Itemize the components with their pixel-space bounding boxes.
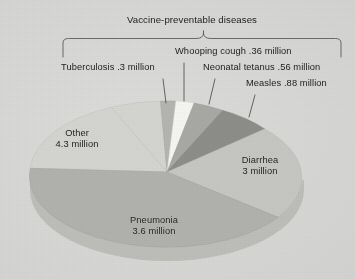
pie-chart-figure: Vaccine-preventable diseases Whooping co… [0,0,355,279]
label-whooping-cough: Whooping cough .36 million [175,46,292,57]
label-other-value: 4.3 million [34,139,120,150]
chart-title: Vaccine-preventable diseases [127,14,257,25]
label-diarrhea-value: 3 million [224,166,296,177]
leader-neonatal-tetanus [209,79,215,104]
leader-measles [249,95,255,117]
label-pneumonia-value: 3.6 million [111,226,197,237]
label-neonatal-tetanus: Neonatal tetanus .56 million [203,62,320,73]
label-pneumonia: Pneumonia 3.6 million [111,215,197,237]
leader-tuberculosis [163,79,166,103]
label-other-name: Other [34,128,120,139]
label-diarrhea: Diarrhea 3 million [224,155,296,177]
label-measles: Measles .88 million [246,78,327,89]
label-tuberculosis: Tuberculosis .3 million [61,62,155,73]
label-pneumonia-name: Pneumonia [111,215,197,226]
label-other: Other 4.3 million [34,128,120,150]
label-diarrhea-name: Diarrhea [224,155,296,166]
